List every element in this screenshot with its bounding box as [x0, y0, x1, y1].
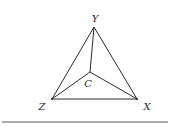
vertex-dot-z	[51, 98, 53, 100]
edges	[51, 27, 138, 100]
vertex-label-x: X	[143, 102, 150, 112]
point-label-c: C	[84, 79, 92, 89]
triangle-diagram: Y Z X C	[0, 0, 169, 126]
edge-xy	[94, 27, 137, 99]
edge-cx	[90, 72, 137, 99]
vertex-dot-x	[136, 98, 138, 100]
vertex-label-z: Z	[39, 102, 46, 112]
vertex-label-y: Y	[92, 14, 99, 24]
